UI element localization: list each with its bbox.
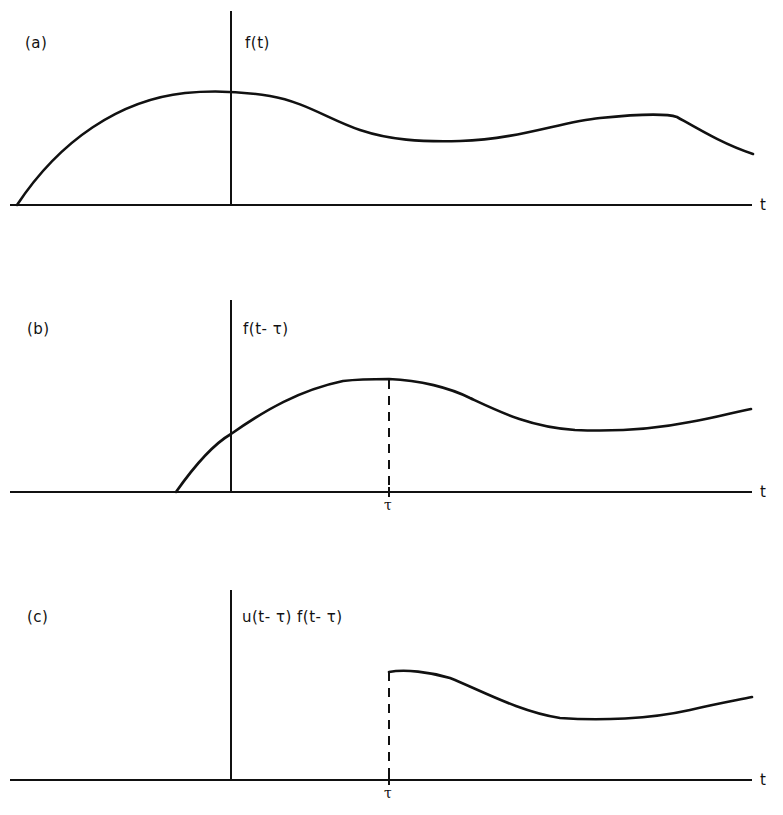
panel-b-t-axis-label: t xyxy=(760,483,766,501)
panel-b-graphics xyxy=(10,300,752,497)
panel-a-label: (a) xyxy=(25,34,47,52)
panel-b-label: (b) xyxy=(27,320,50,338)
panel-a-function-label: f(t) xyxy=(245,34,270,52)
panel-b-function-label: f(t- τ) xyxy=(243,320,289,338)
figure-graphics xyxy=(0,0,783,815)
panel-b-tau-label: τ xyxy=(384,497,392,513)
panel-c-tau-label: τ xyxy=(384,785,392,801)
time-shift-figure: (a) f(t) t (b) f(t- τ) t τ (c) u(t- τ) f… xyxy=(0,0,783,815)
panel-c-curve-truncated xyxy=(389,671,752,719)
panel-a-graphics xyxy=(10,11,753,205)
panel-c-graphics xyxy=(10,590,752,785)
panel-a-curve-f-t xyxy=(17,92,753,205)
panel-b-curve-f-t-minus-tau xyxy=(176,379,751,492)
panel-c-function-label: u(t- τ) f(t- τ) xyxy=(242,608,343,626)
panel-c-label: (c) xyxy=(27,608,48,626)
panel-a-t-axis-label: t xyxy=(760,196,766,214)
panel-c-t-axis-label: t xyxy=(760,771,766,789)
